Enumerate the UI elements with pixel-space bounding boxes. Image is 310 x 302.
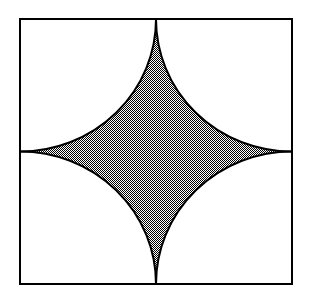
geometric-diagram: Square with four inscribed quarter-circl… bbox=[0, 0, 310, 302]
figure-container: Square with four inscribed quarter-circl… bbox=[0, 0, 310, 302]
